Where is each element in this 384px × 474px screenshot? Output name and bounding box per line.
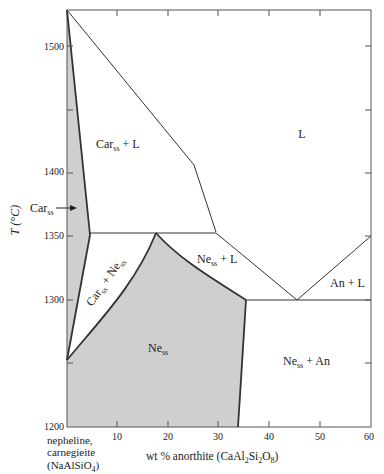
x-tick-60: 60 — [364, 431, 374, 442]
x-tick-50: 50 — [315, 431, 325, 442]
region-label-ne-l: Ness + L — [197, 252, 237, 268]
x-tick-20: 20 — [163, 431, 173, 442]
x-axis-label: wt % anorthite (CaAl2Si2O8) — [146, 450, 279, 465]
x-tick-10: 10 — [112, 431, 122, 442]
x-tick-40: 40 — [264, 431, 274, 442]
x-tick-30: 30 — [213, 431, 223, 442]
y-tick-1500: 1500 — [44, 41, 64, 52]
phase-diagram: 1500 1400 1350 1300 1200 10 20 30 40 50 … — [0, 0, 384, 474]
region-label-ne-an: Ness + An — [283, 354, 330, 370]
region-label-liquid: L — [298, 127, 305, 141]
endmember-line-1: nepheline, — [47, 434, 93, 446]
endmember-line-3: (NaAlSiO4) — [47, 459, 100, 474]
carnegieite-ss-region — [67, 10, 90, 360]
carnegieite-liquidus-line — [67, 10, 216, 232]
region-label-car-l: Carss + L — [96, 137, 140, 153]
y-tick-1350: 1350 — [44, 230, 64, 241]
region-label-an-l: An + L — [330, 276, 365, 290]
anorthite-liquidus-line — [297, 236, 371, 300]
endmember-line-2: carnegieite — [47, 446, 95, 458]
y-axis-label: T (°C) — [8, 205, 22, 235]
y-tick-1400: 1400 — [44, 166, 64, 177]
carnegieite-ss-label: Carss — [30, 201, 54, 217]
y-tick-1200: 1200 — [44, 421, 64, 432]
y-tick-1300: 1300 — [44, 294, 64, 305]
